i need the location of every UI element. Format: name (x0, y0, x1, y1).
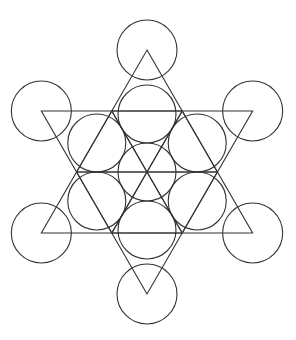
grid-line (77, 172, 112, 233)
ring-circle (118, 85, 176, 143)
hexagram-diagram (0, 0, 296, 340)
grid-line (182, 111, 217, 172)
ring-circle (68, 114, 126, 172)
sacred-geometry-figure (0, 0, 296, 340)
downward-triangle (41, 111, 252, 294)
inner-grid-lines (77, 111, 218, 233)
ring-circle (168, 172, 226, 230)
ring-circle (168, 114, 226, 172)
ring-circle (118, 201, 176, 259)
ring-circle (68, 172, 126, 230)
upward-triangle (41, 50, 252, 233)
grid-line (182, 172, 217, 233)
grid-line (77, 111, 112, 172)
